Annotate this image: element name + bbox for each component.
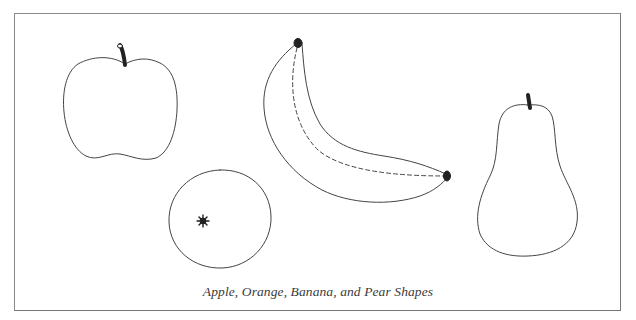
apple-shape — [64, 44, 178, 159]
fruit-illustration — [0, 0, 636, 320]
figure-caption: Apple, Orange, Banana, and Pear Shapes — [0, 284, 636, 300]
banana-tip-icon — [444, 171, 451, 181]
pear-shape — [478, 95, 578, 256]
banana-stem-icon — [294, 39, 302, 48]
orange-navel-icon — [197, 215, 209, 227]
banana-shape — [264, 39, 451, 203]
orange-shape — [169, 170, 271, 268]
